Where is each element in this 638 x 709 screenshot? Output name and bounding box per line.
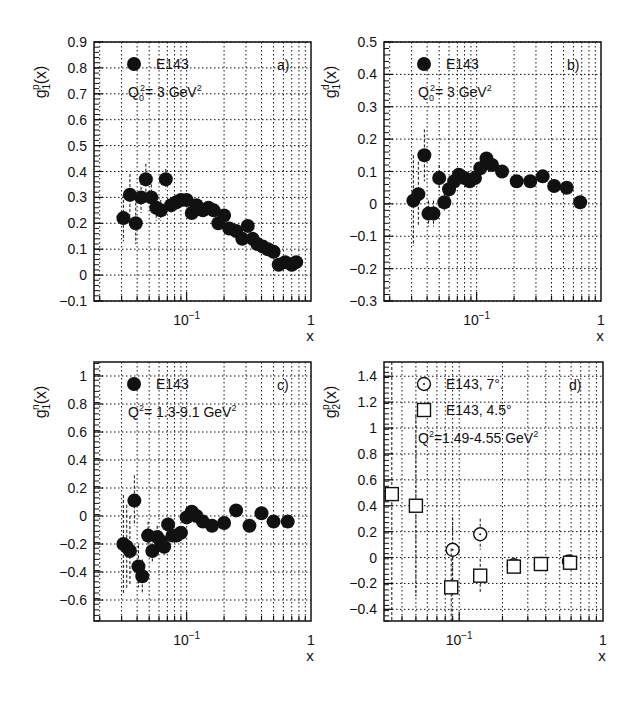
legend-label: E143, 7°. [446,376,504,392]
y-axis-label: g2p(x) [320,386,342,419]
data-point [445,581,458,594]
y-axis-label: g1d(x) [320,66,342,99]
data-point [123,544,137,558]
data-point [426,207,440,221]
data-point [474,569,487,582]
panel-label: d) [569,377,581,393]
data-point [411,187,425,201]
y-tick-label: 0 [369,196,377,212]
y-tick-label: −0.1 [59,293,87,309]
data-point [135,569,149,583]
panel-d: −0.4−0.200.20.40.60.811.21.410−11xg2p(x)… [320,362,607,664]
data-point [159,172,173,186]
y-tick-label: 0.5 [68,138,88,154]
y-tick-label: 0 [79,267,87,283]
x-tick-label: 1 [307,632,315,648]
y-tick-label: 0.2 [358,131,378,147]
x-tick-label: 10−1 [173,310,200,328]
data-point [417,148,431,162]
y-tick-label: −0.4 [59,564,87,580]
x-axis-label: x [306,327,314,344]
data-point [116,211,130,225]
y-tick-label: 0.8 [68,396,88,412]
data-point [127,494,141,508]
data-point [229,503,243,517]
data-point [139,172,153,186]
legend-marker-center [423,383,425,385]
y-tick-label: 0.4 [68,164,88,180]
y-tick-label: 0.2 [68,480,88,496]
q2-annotation: Q2= 1.3-9.1 GeV2 [128,403,236,420]
data-point [495,165,509,179]
data-point [129,216,143,230]
data-point [255,506,269,520]
data-point [267,245,281,259]
x-axis-label: x [596,327,604,344]
data-point [432,171,446,185]
data-point [409,499,422,512]
y-tick-label: 0.3 [68,189,88,205]
plot-frame [384,362,603,621]
x-tick-label: 10−1 [446,630,473,648]
y-axis-label: g1p(x) [30,66,52,99]
legend-marker [127,377,141,391]
legend-marker [417,57,431,71]
data-point [289,255,303,269]
data-point-center [452,549,454,551]
data-series [116,164,303,272]
data-series [385,362,576,621]
legend-marker [127,57,141,71]
y-tick-label: 1 [79,368,87,384]
legend: E143 [127,376,189,392]
x-tick-label: 1 [599,632,607,648]
data-point [560,181,574,195]
data-series [116,475,294,593]
x-axis-label: x [306,647,314,664]
legend-label: E143 [156,376,189,392]
panel-label: b) [567,57,579,73]
y-tick-label: 1.2 [358,394,378,410]
y-tick-label: −0.2 [59,536,87,552]
data-point [281,515,295,529]
data-point [510,174,524,188]
y-tick-label: −0.6 [59,592,87,608]
y-tick-label: 0.5 [358,34,378,50]
y-tick-label: 0.6 [68,112,88,128]
data-point [507,560,520,573]
y-tick-label: 0 [79,508,87,524]
data-point [157,540,171,554]
y-tick-label: 0.8 [68,60,88,76]
y-tick-label: −0.3 [349,293,377,309]
data-point [536,169,550,183]
y-tick-label: 0.4 [358,498,378,514]
x-axis-label: x [598,647,606,664]
y-tick-label: −0.4 [349,601,377,617]
y-tick-label: 0.1 [358,164,378,180]
y-tick-label: 0 [369,550,377,566]
y-tick-label: 1 [369,420,377,436]
data-point [534,558,547,571]
panel-b: −0.3−0.2−0.100.10.20.30.40.510−11xg1d(x)… [320,34,605,344]
data-point [564,556,577,569]
y-axis-label: g1n(x) [30,386,52,419]
y-tick-label: 0.6 [68,424,88,440]
y-tick-label: 0.2 [358,524,378,540]
y-tick-label: 0.7 [68,86,88,102]
y-tick-label: −0.2 [349,261,377,277]
legend: E143 [127,56,189,72]
panel-label: a) [277,57,289,73]
q2-annotation: Q02= 3 GeV2 [128,83,202,103]
x-tick-label: 1 [597,312,605,328]
data-point [217,516,231,530]
y-tick-label: 0.1 [68,241,88,257]
data-point [241,219,255,233]
panel-a: −0.100.10.20.30.40.50.60.70.80.910−11xg1… [30,34,315,344]
figure-four-panel: −0.100.10.20.30.40.50.60.70.80.910−11xg1… [0,0,638,709]
data-point [573,195,587,209]
panel-label: c) [277,377,289,393]
data-point-center [479,533,481,535]
data-point [547,179,561,193]
y-tick-label: 0.6 [358,472,378,488]
y-tick-label: 0.2 [68,215,88,231]
legend-label: E143 [156,56,189,72]
